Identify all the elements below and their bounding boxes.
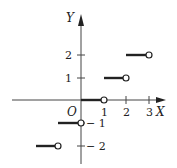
x-axis-label: X xyxy=(155,105,165,119)
origin-label: O xyxy=(67,105,77,119)
y-tick-label-2: 2 xyxy=(65,49,72,62)
y-tick-label-1: 1 xyxy=(65,72,72,85)
open-circle-icon xyxy=(101,97,107,103)
x-tick-label-3: 3 xyxy=(146,106,153,119)
y-tick-label-m1: − 1 xyxy=(86,117,106,130)
y-axis-label: Y xyxy=(66,11,75,25)
open-circle-icon xyxy=(146,52,152,58)
x-axis-arrow-icon xyxy=(156,97,166,103)
open-circle-icon xyxy=(55,143,61,149)
y-axis-arrow-icon xyxy=(78,14,84,26)
open-circle-icon xyxy=(78,120,84,126)
open-circle-icon xyxy=(123,75,129,81)
y-tick-label-m2: − 2 xyxy=(86,140,106,153)
x-tick-label-2: 2 xyxy=(123,106,130,119)
step-function-chart: Y X O 1 2 3 2 1 − 1 − 2 xyxy=(0,0,177,168)
chart-svg: Y X O 1 2 3 2 1 − 1 − 2 xyxy=(0,0,177,168)
